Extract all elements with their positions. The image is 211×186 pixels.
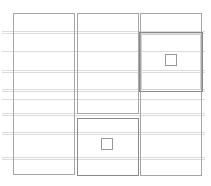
wireframe-stage [0, 0, 211, 186]
middle-placeholder-square [101, 138, 113, 150]
middle-top-box [77, 13, 139, 114]
right-placeholder-square [165, 54, 177, 66]
left-column-box [13, 13, 75, 175]
